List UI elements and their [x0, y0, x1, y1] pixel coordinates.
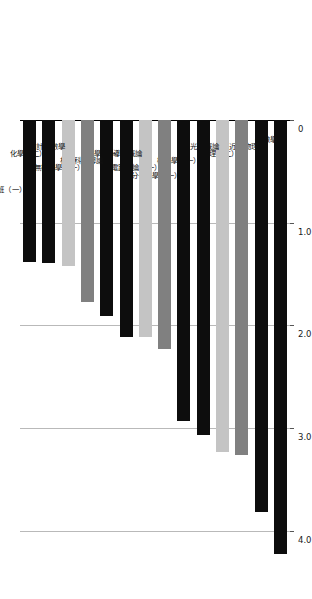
value-axis-baseline [20, 120, 290, 121]
gridline [20, 428, 290, 429]
axis-tick-label: 4.0 [298, 535, 312, 545]
bar [100, 120, 113, 316]
bar [177, 120, 190, 421]
category-label: 電路理論（一） [111, 164, 161, 171]
plot-area: 01.02.03.04.0代數學近代物理物理（二）光學概論機化學（一）高分子化學… [20, 120, 290, 572]
category-label: 分析導論實驗班（一） [0, 186, 26, 193]
axis-tick [290, 223, 294, 224]
bar-chart: 01.02.03.04.0代數學近代物理物理（二）光學概論機化學（一）高分子化學… [0, 0, 312, 599]
bar [274, 120, 287, 554]
axis-tick [290, 325, 294, 326]
axis-tick [290, 428, 294, 429]
bar [42, 120, 55, 263]
axis-tick [290, 120, 294, 121]
axis-tick-label: 3.0 [298, 432, 312, 442]
axis-tick-label: 1.0 [298, 227, 312, 237]
axis-tick-label: 2.0 [298, 329, 312, 339]
bar [235, 120, 248, 455]
bar [197, 120, 210, 435]
bar [216, 120, 229, 452]
bar [158, 120, 171, 349]
gridline [20, 325, 290, 326]
bar [81, 120, 94, 302]
bar [255, 120, 268, 512]
axis-tick-label: 0 [298, 124, 303, 134]
gridline [20, 223, 290, 224]
axis-tick [290, 531, 294, 532]
gridline [20, 531, 290, 532]
rotated-figure-wrapper: 01.02.03.04.0代數學近代物理物理（二）光學概論機化學（一）高分子化學… [0, 0, 312, 599]
category-label: 無機化學（一） [34, 164, 84, 171]
